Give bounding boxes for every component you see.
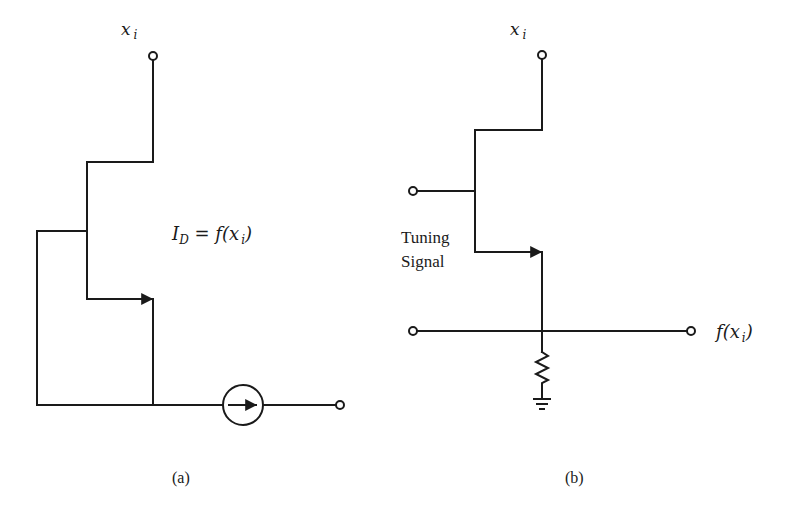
panel-b-input-terminal: [538, 51, 546, 59]
panel-a-output-terminal: [336, 401, 344, 409]
panel-a-caption: (a): [172, 469, 190, 487]
panel-b-drain-wire: [475, 60, 542, 252]
panel-a-equation: ID = f(xi): [171, 223, 252, 247]
circuit-figure: xi ID = f(xi) (a) xi: [0, 0, 791, 513]
panel-b-signal-left-terminal: [409, 327, 417, 335]
panel-a-input-label: xi: [121, 19, 138, 42]
ground-icon: [534, 399, 550, 409]
panel-a-input-terminal: [149, 52, 157, 60]
panel-b: xi Tuning Signal f(xi) (b): [401, 19, 753, 487]
panel-b-signal-right-terminal: [687, 327, 695, 335]
panel-b-gate-terminal: [409, 187, 417, 195]
panel-b-caption: (b): [565, 469, 584, 487]
resistor-icon: [536, 352, 548, 398]
panel-a-drain-wire: [87, 60, 153, 299]
current-source-icon: [223, 385, 263, 425]
tuning-signal-label: Tuning Signal: [401, 228, 454, 271]
panel-a: xi ID = f(xi) (a): [37, 19, 344, 487]
panel-b-output-label: f(xi): [714, 321, 753, 345]
panel-b-input-label: xi: [510, 19, 527, 42]
panel-a-gate-feedback-wire: [37, 231, 223, 405]
